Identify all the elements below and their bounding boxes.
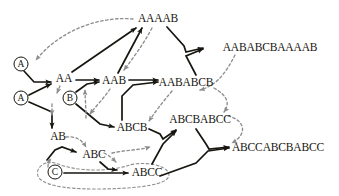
string-node-aaaab[interactable]: AAAAB (138, 13, 178, 25)
terminal-node-label: A (18, 93, 25, 103)
terminal-node-a-1[interactable]: A (14, 57, 29, 72)
terminal-node-b[interactable]: B (63, 91, 78, 106)
string-node-abcc[interactable]: ABCC (132, 167, 163, 179)
terminal-node-c[interactable]: C (48, 165, 63, 180)
solid-edges (24, 27, 229, 176)
terminal-node-label: A (18, 59, 25, 69)
string-node-aababcbaaaab[interactable]: AABABCBAAAAB (223, 42, 318, 54)
string-node-ab[interactable]: AB (50, 131, 66, 143)
terminal-node-label: C (52, 167, 58, 177)
terminal-node-label: B (67, 93, 73, 103)
string-node-abcbabcc[interactable]: ABCBABCC (169, 114, 230, 126)
string-node-abc[interactable]: ABC (82, 149, 105, 161)
string-node-abcb[interactable]: ABCB (117, 122, 148, 134)
string-node-abccabcbabcc[interactable]: ABCCABCBABCC (232, 142, 324, 154)
string-node-aab[interactable]: AAB (102, 75, 126, 87)
derivation-graph-figure: A (top circled), long sweeping curve -->… (0, 0, 339, 196)
string-node-aababcb[interactable]: AABABCB (159, 77, 214, 89)
string-node-aa[interactable]: AA (56, 73, 72, 85)
terminal-node-a-2[interactable]: A (14, 91, 29, 106)
